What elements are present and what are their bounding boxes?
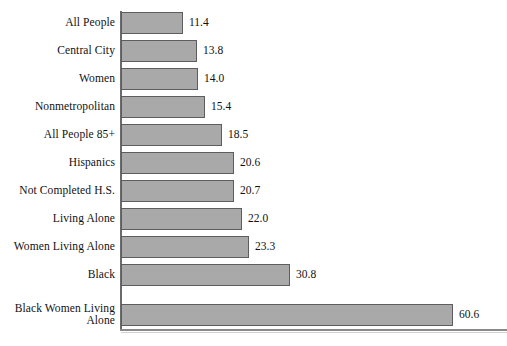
bar (121, 208, 242, 230)
bar-row: All People 85+ 18.5 (0, 123, 507, 147)
bar (121, 96, 205, 118)
category-label: Nonmetropolitan (0, 100, 115, 112)
bar-value-label: 20.6 (240, 156, 260, 168)
x-axis-baseline-shadow (121, 332, 507, 333)
bar (121, 40, 197, 62)
bar (121, 152, 234, 174)
bar-value-label: 22.0 (248, 212, 268, 224)
category-label: All People 85+ (0, 128, 115, 140)
category-label: Hispanics (0, 156, 115, 168)
bar (121, 180, 234, 202)
category-label: Living Alone (0, 212, 115, 224)
bar (121, 124, 222, 146)
bar-value-label: 14.0 (204, 72, 224, 84)
bar-row: Central City 13.8 (0, 39, 507, 63)
x-axis-baseline (120, 329, 507, 331)
category-label: All People (0, 16, 115, 28)
category-label: Women Living Alone (0, 240, 115, 252)
bar-value-label: 18.5 (228, 128, 248, 140)
bar-value-label: 23.3 (255, 240, 275, 252)
bar-row: Black 30.8 (0, 263, 507, 287)
category-label: Black Women Living Alone (0, 302, 115, 326)
bar-value-label: 11.4 (189, 16, 209, 28)
category-label: Central City (0, 44, 115, 56)
bar-row: Living Alone 22.0 (0, 207, 507, 231)
bar-value-label: 20.7 (240, 184, 260, 196)
bar-row: Hispanics 20.6 (0, 151, 507, 175)
bar (121, 264, 290, 286)
bar (121, 12, 183, 34)
category-label: Not Completed H.S. (0, 184, 115, 196)
bar-value-label: 15.4 (211, 100, 231, 112)
bar-value-label: 30.8 (296, 268, 316, 280)
bar-row: All People 11.4 (0, 11, 507, 35)
bar-row: Not Completed H.S. 20.7 (0, 179, 507, 203)
bar (121, 236, 249, 258)
plot-area: All People 11.4 Central City 13.8 Women … (0, 0, 507, 346)
category-label: Women (0, 72, 115, 84)
bar-row: Black Women Living Alone 60.6 (0, 303, 507, 327)
bar-value-label: 60.6 (459, 308, 479, 320)
bar (121, 304, 453, 326)
bar-row: Women Living Alone 23.3 (0, 235, 507, 259)
bar (121, 68, 198, 90)
bar-row: Women 14.0 (0, 67, 507, 91)
category-label: Black (0, 268, 115, 280)
bar-chart: All People 11.4 Central City 13.8 Women … (0, 0, 507, 346)
bar-row: Nonmetropolitan 15.4 (0, 95, 507, 119)
bar-value-label: 13.8 (203, 44, 223, 56)
